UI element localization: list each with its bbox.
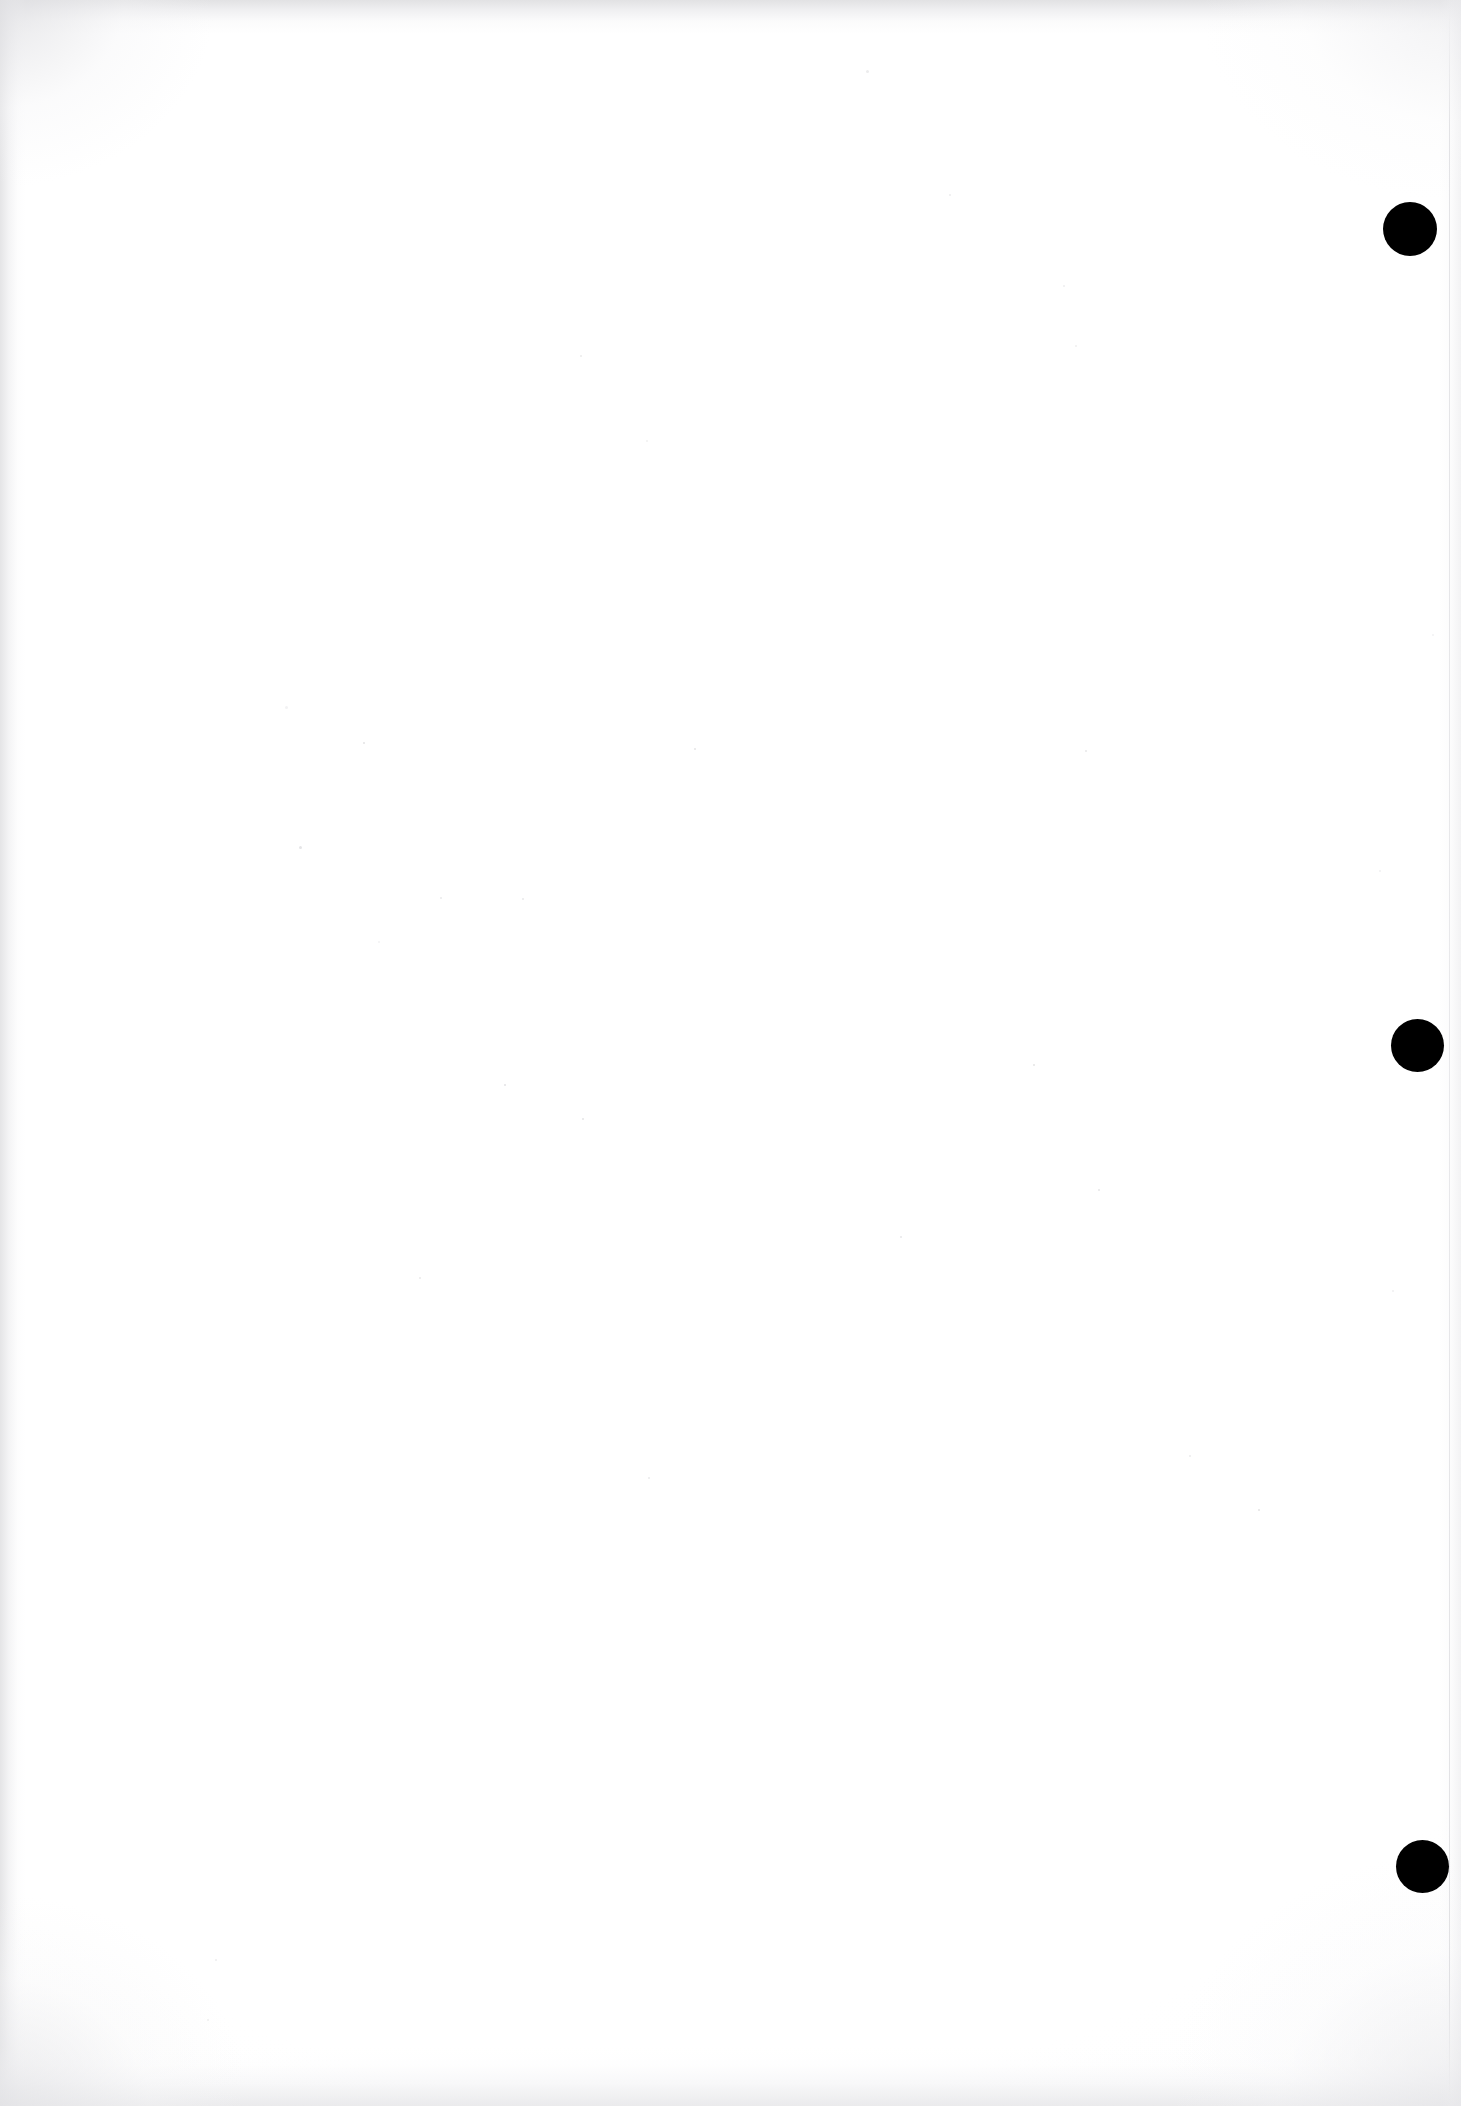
scan-dust-speck: [285, 706, 288, 709]
scan-dust-speck: [1379, 870, 1381, 872]
binding-mark-top: [1383, 202, 1437, 256]
scan-dust-speck: [363, 742, 365, 744]
scan-dust-speck: [378, 941, 380, 943]
document-body: [60, 70, 1350, 2020]
scan-dust-speck: [440, 897, 442, 899]
scan-dust-speck: [299, 846, 302, 849]
scan-dust-speck: [1258, 1509, 1260, 1511]
scan-dust-speck: [522, 898, 524, 900]
scan-dust-speck: [215, 1959, 217, 1961]
scan-dust-speck: [648, 1477, 650, 1479]
scan-dust-speck: [1098, 1189, 1100, 1191]
scan-dust-speck: [1392, 1290, 1394, 1292]
scan-dust-speck: [1075, 345, 1077, 347]
scan-dust-speck: [207, 2019, 209, 2021]
binding-mark-middle: [1391, 1019, 1444, 1072]
scan-dust-speck: [694, 748, 696, 750]
scan-dust-speck: [1063, 285, 1065, 287]
scanned-page: [0, 0, 1461, 2106]
scan-dust-speck: [582, 1118, 584, 1120]
scan-dust-speck: [504, 1084, 506, 1086]
scan-dust-speck: [949, 194, 951, 196]
binding-mark-bottom: [1396, 1840, 1449, 1893]
scan-dust-speck: [580, 355, 582, 357]
scan-dust-speck: [1432, 634, 1434, 636]
scan-dust-speck: [1033, 1064, 1035, 1066]
scan-dust-speck: [866, 70, 869, 73]
page-right-edge-line: [1449, 0, 1450, 2106]
scan-dust-speck: [1189, 1455, 1191, 1457]
scan-dust-speck: [1085, 750, 1087, 752]
scan-dust-speck: [419, 1277, 421, 1279]
scan-dust-speck: [900, 1236, 902, 1238]
scan-dust-speck: [646, 440, 648, 442]
